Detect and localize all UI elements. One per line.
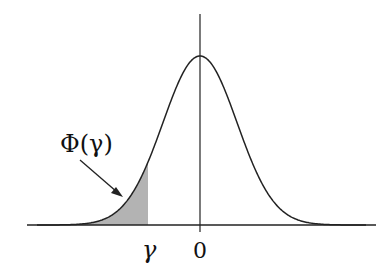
normal-distribution-diagram: Φ(γ) γ 0 xyxy=(0,0,391,279)
gamma-tick-label: γ xyxy=(142,236,157,264)
zero-tick-label: 0 xyxy=(193,238,207,263)
pointer-arrow xyxy=(80,160,117,192)
area-label: Φ(γ) xyxy=(60,130,113,158)
